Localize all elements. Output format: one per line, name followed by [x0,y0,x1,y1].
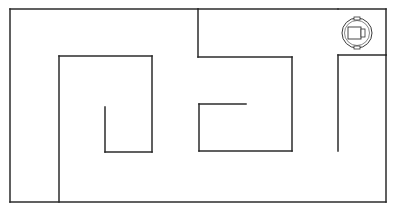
robot-wheel-top [354,17,360,20]
maze-walls [10,9,386,202]
robot-body [348,27,361,39]
robot-wheel-bottom [354,46,360,49]
robot-sensor [361,29,365,37]
maze-canvas [0,0,395,213]
robot-icon [342,17,372,49]
maze-diagram [0,0,395,213]
